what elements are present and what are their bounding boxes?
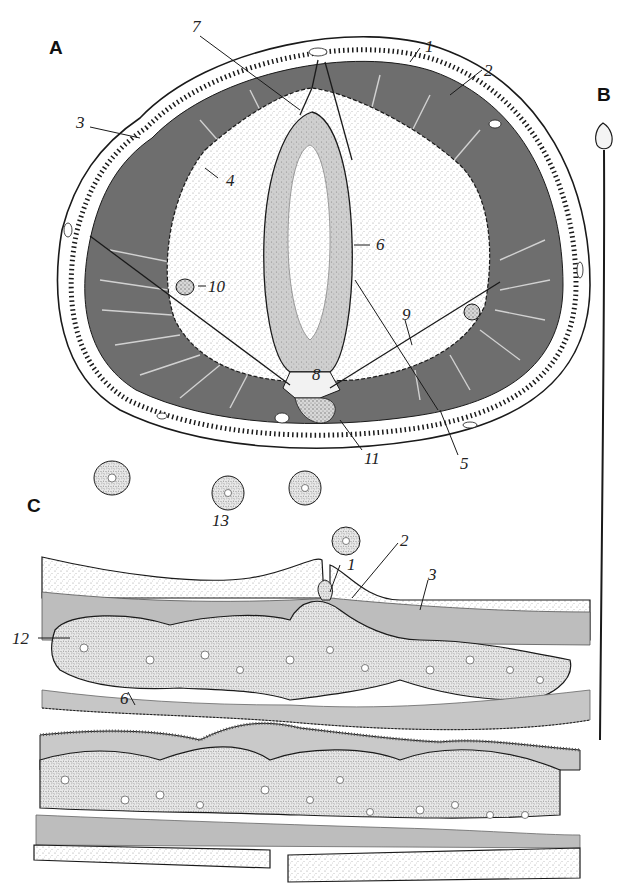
panel-label-c: C (27, 495, 41, 517)
label-a-10: 10 (208, 278, 225, 295)
label-a-4: 4 (226, 172, 235, 189)
label-c-1: 1 (347, 556, 356, 573)
panel-label-b: B (597, 84, 611, 106)
panel-label-a: A (49, 37, 63, 59)
label-c-13: 13 (212, 512, 229, 529)
label-a-7: 7 (192, 18, 201, 35)
label-a-3: 3 (76, 114, 85, 131)
label-a-9: 9 (402, 306, 411, 323)
label-c-12: 12 (12, 630, 29, 647)
label-c-3: 3 (428, 566, 437, 583)
label-a-1: 1 (425, 38, 434, 55)
label-a-11: 11 (364, 450, 380, 467)
label-c-2: 2 (400, 532, 409, 549)
label-a-6: 6 (376, 236, 385, 253)
label-a-8: 8 (312, 366, 321, 383)
label-c-6: 6 (120, 690, 129, 707)
panel-a-cross-section (58, 36, 590, 455)
label-a-2: 2 (484, 62, 493, 79)
anatomical-figure: A B C 1 2 3 4 5 6 7 8 9 10 11 13 1 2 3 1… (0, 0, 623, 894)
figure-drawing (0, 0, 623, 894)
panel-b-whole-organism (596, 123, 612, 740)
panel-c-lower-section (34, 723, 580, 882)
panel-c-free-cells (94, 461, 360, 555)
label-a-5: 5 (460, 455, 469, 472)
